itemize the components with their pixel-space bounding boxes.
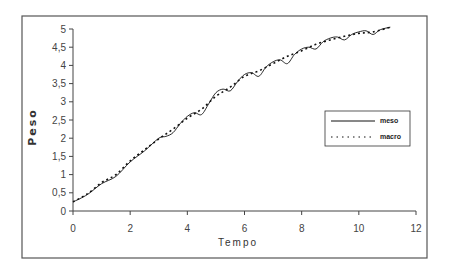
legend-label-meso: meso [380,117,398,124]
y-axis-title: Peso [26,108,39,146]
y-tick-label: 5 [60,24,66,35]
legend-label-macro: macro [380,133,401,140]
x-tick-label: 4 [185,223,191,234]
y-tick-label: 0,5 [52,187,66,198]
y-tick-label: 1,5 [52,151,66,162]
y-tick-label: 2 [60,133,66,144]
x-tick-label: 0 [70,223,76,234]
x-axis-title: Tempo [218,237,258,248]
legend: meso macro [325,111,410,146]
y-tick-label: 2,5 [52,115,66,126]
y-tick-label: 0 [60,206,66,217]
y-tick-label: 4,5 [52,42,66,53]
x-tick-label: 12 [410,223,422,234]
y-tick-label: 1 [60,169,66,180]
y-tick-label: 3 [60,96,66,107]
x-tick-label: 6 [242,223,248,234]
y-tick-label: 4 [60,60,66,71]
x-tick-label: 2 [127,223,133,234]
chart: 00,511,522,533,544,55 024681012 Tempo Pe… [0,0,449,275]
x-tick-label: 8 [299,223,305,234]
x-tick-label: 10 [353,223,365,234]
y-tick-label: 3,5 [52,78,66,89]
